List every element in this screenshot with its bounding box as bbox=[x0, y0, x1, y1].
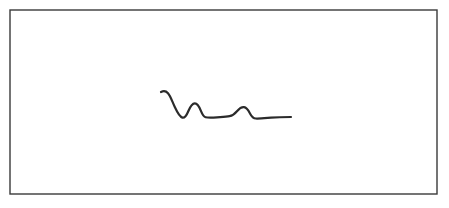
figure-canvas bbox=[0, 0, 449, 208]
border-rectangle bbox=[10, 10, 437, 194]
figure-svg bbox=[0, 0, 449, 208]
